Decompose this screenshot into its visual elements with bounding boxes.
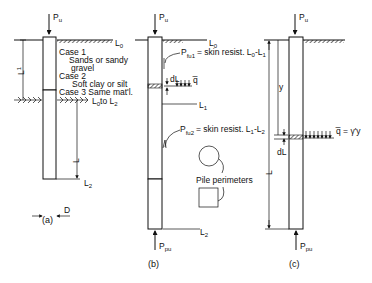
dim-label-l-c: L <box>264 170 274 175</box>
level-l0: L0 <box>115 38 124 49</box>
dim-label-l: L <box>71 158 81 163</box>
tip-resistance-label-c: Ppu <box>300 241 312 252</box>
perimeter-arrow-square <box>218 187 224 201</box>
element-label-dl-c: dL <box>277 147 287 157</box>
perimeter-label: Pile perimeters <box>196 175 253 185</box>
level-l1: L1 <box>199 100 208 111</box>
element-dl-b <box>148 84 162 88</box>
dim-label-y: y <box>279 82 284 92</box>
pile-shaft-a-lower <box>43 90 56 179</box>
element-dl-c <box>289 135 303 139</box>
perimeter-square-icon <box>199 188 218 207</box>
pressure-label-c: q̅ = γ'y <box>335 126 361 136</box>
caption-c: (c) <box>289 259 300 269</box>
caption-a: (a) <box>42 215 53 225</box>
skin-resist-1-leader <box>165 53 180 63</box>
level-l2-b: L2 <box>200 227 209 238</box>
pile-shaft-b <box>148 37 162 179</box>
dim-label-d: D <box>64 205 70 215</box>
skin-resist-2-label: Pfu2= skin resist. L1-L2 <box>180 124 265 136</box>
caption-b: (b) <box>148 259 159 269</box>
pile-shaft-a <box>43 37 56 90</box>
skin-resist-1-label: Pfu1= skin resist. L0-L1 <box>181 47 266 59</box>
pile-shaft-b-lower <box>148 179 162 229</box>
panel-b: Pu L0 Pfu1= skin resist. L0-L1 dL q̅ L1 <box>135 12 266 269</box>
pile-diagram-figure: Pu L0 Case 1 Sands or sandy gravel Case … <box>0 0 372 283</box>
element-label-dl: dL <box>170 74 180 84</box>
pressure-label-q: q̅ <box>192 75 198 85</box>
dim-label-l1: L1 <box>16 66 26 75</box>
perimeter-arrow-circle <box>219 159 223 173</box>
level-l2: L2 <box>84 178 93 189</box>
pressure-arrows-c <box>304 131 334 138</box>
load-label-pu: Pu <box>53 12 62 23</box>
panel-a: Pu L0 Case 1 Sands or sandy gravel Case … <box>14 12 133 225</box>
perimeter-circle-icon <box>199 146 219 166</box>
panel-c: Pu L y dL q̅ = γ'y <box>264 12 361 269</box>
skin-resist-2-leader <box>165 130 180 147</box>
load-label-pu-b: Pu <box>159 12 168 23</box>
pile-shaft-c <box>289 37 303 229</box>
tip-resistance-label: Ppu <box>159 241 171 252</box>
case-3-desc2: L0to L2 <box>92 96 118 107</box>
load-label-pu-c: Pu <box>299 12 308 23</box>
